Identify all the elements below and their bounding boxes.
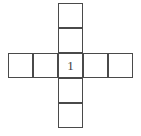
cell-right-outer	[108, 53, 133, 78]
cell-left-outer	[8, 53, 33, 78]
cell-top-inner	[58, 28, 83, 53]
cell-left-inner	[33, 53, 58, 78]
figure-canvas: 1	[0, 0, 141, 136]
cell-right-inner	[83, 53, 108, 78]
cell-bottom-outer	[58, 103, 83, 128]
cell-bottom-inner	[58, 78, 83, 103]
center-cell-label: 1	[67, 59, 74, 72]
cell-center: 1	[58, 53, 83, 78]
cell-top-outer	[58, 3, 83, 28]
